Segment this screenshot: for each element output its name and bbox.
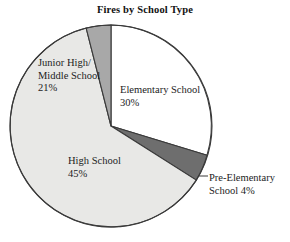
pie-chart-figure: Fires by School Type Elementary School 3… [0, 0, 290, 242]
slice-label-elementary-school: Elementary School 30% [120, 84, 200, 109]
slice-label-high-school-value: 45% [68, 168, 121, 181]
slice-label-high-school-name: High School [68, 155, 121, 166]
slice-label-high-school: High School 45% [68, 155, 121, 180]
slice-label-pre-elementary-value: School 4% [209, 185, 275, 198]
slice-label-junior-high-value: 21% [38, 82, 100, 95]
slice-label-pre-elementary-school: Pre-Elementary School 4% [209, 172, 275, 197]
slice-label-junior-high-middle-school: Junior High/ Middle School 21% [38, 57, 100, 95]
slice-label-junior-high-name-line2: Middle School [38, 70, 100, 83]
slice-label-junior-high-name-line1: Junior High/ [38, 57, 91, 68]
slice-label-elementary-school-value: 30% [120, 97, 200, 110]
pie-chart-graphic [0, 0, 290, 242]
slice-label-pre-elementary-name: Pre-Elementary [209, 172, 275, 183]
slice-label-elementary-school-name: Elementary School [120, 84, 200, 95]
